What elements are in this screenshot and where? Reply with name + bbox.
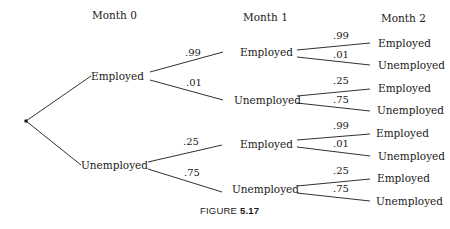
node-m1-employed-a: Employed <box>240 47 293 58</box>
prob-m2-7: .25 <box>333 166 349 176</box>
prob-m2-5: .99 <box>333 121 349 131</box>
branch-root-employed <box>26 76 91 121</box>
header-month-0: Month 0 <box>92 10 137 21</box>
header-month-1: Month 1 <box>243 12 288 23</box>
prob-m2-2: .01 <box>333 50 349 60</box>
figure-caption: FIGURE 5.17 <box>200 205 259 216</box>
branch-m1u-m2u-b <box>297 193 370 201</box>
node-m2-5: Employed <box>376 128 429 139</box>
prob-m1-uu: .75 <box>184 168 200 178</box>
probability-tree-diagram: Month 0 Month 1 Month 2 Employed Unemplo… <box>0 0 450 229</box>
node-m1-unemployed-a: Unemployed <box>234 95 301 106</box>
prob-m2-3: .25 <box>333 76 349 86</box>
prob-m1-eu: .01 <box>186 78 202 88</box>
prob-m2-1: .99 <box>333 31 349 41</box>
node-m2-1: Employed <box>378 38 431 49</box>
node-m2-8: Unemployed <box>376 196 443 207</box>
node-m0-employed: Employed <box>91 71 144 82</box>
prob-m1-ee: .99 <box>185 48 201 58</box>
node-m1-employed-b: Employed <box>240 139 293 150</box>
prob-m2-8: .75 <box>333 184 349 194</box>
node-m2-3: Employed <box>378 83 431 94</box>
prob-m2-6: .01 <box>333 139 349 149</box>
root-node-dot <box>24 119 28 123</box>
node-m0-unemployed: Unemployed <box>81 160 148 171</box>
node-m2-7: Employed <box>377 173 430 184</box>
node-m2-4: Unemployed <box>377 105 444 116</box>
prob-m2-4: .75 <box>333 95 349 105</box>
caption-number: 5.17 <box>240 205 259 216</box>
node-m2-2: Unemployed <box>378 60 445 71</box>
node-m2-6: Unemployed <box>378 151 445 162</box>
header-month-2: Month 2 <box>381 13 426 24</box>
caption-prefix: FIGURE <box>200 205 240 216</box>
node-m1-unemployed-b: Unemployed <box>232 184 299 195</box>
prob-m1-ue: .25 <box>183 137 199 147</box>
branch-root-unemployed <box>26 121 81 165</box>
branch-m0u-m1e <box>148 145 222 162</box>
